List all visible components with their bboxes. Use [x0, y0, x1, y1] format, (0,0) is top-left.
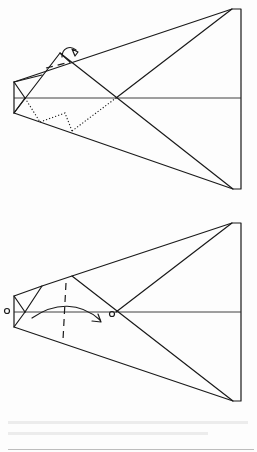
- upper-diagonal: [116, 223, 232, 312]
- nose-edge-lower: [14, 312, 25, 327]
- page-rule: [8, 449, 254, 450]
- valley-fold-line: [63, 283, 66, 340]
- step-valley-fold-nose-diagram: [0, 0, 257, 452]
- diagram-page: [0, 0, 257, 452]
- fold-over-arrow-icon: [32, 306, 101, 322]
- nose-flap-diagonal: [25, 286, 42, 312]
- nose-edge-upper: [14, 296, 25, 312]
- bleed-through-text: [8, 421, 248, 424]
- bleed-through-text: [8, 432, 208, 435]
- lower-diagonal: [72, 276, 233, 401]
- reference-circle-left-icon: [5, 309, 10, 314]
